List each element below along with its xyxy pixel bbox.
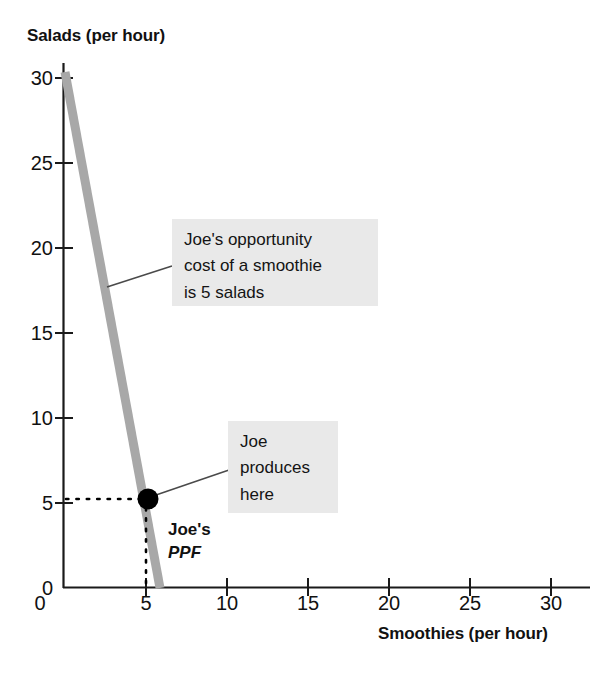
joe-production-point-marker <box>138 489 159 510</box>
ppf-label-name: Joe's <box>168 520 211 539</box>
ppf-curve-label: Joe's PPF <box>168 519 211 565</box>
annotation-produces-here: Joe produces here <box>228 421 338 513</box>
plot-area <box>0 0 598 674</box>
ppf-chart-figure: Salads (per hour) Smoothies (per hour) 0… <box>0 0 598 674</box>
opportunity-cost-leader-line <box>107 266 172 287</box>
ppf-label-abbr: PPF <box>168 542 211 565</box>
annotation-opportunity-cost: Joe's opportunity cost of a smoothie is … <box>172 219 378 306</box>
produces-here-leader-line <box>156 470 229 495</box>
